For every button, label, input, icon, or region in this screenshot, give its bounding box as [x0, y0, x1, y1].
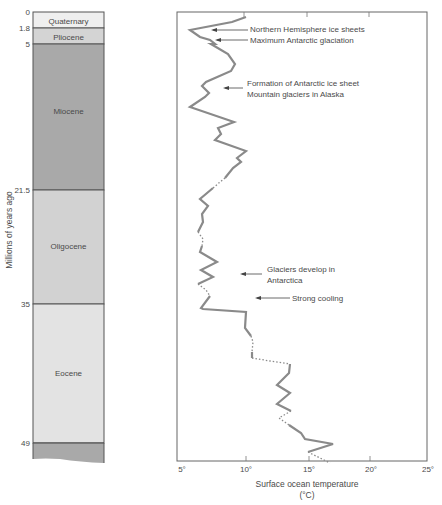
annotation-antarctica: Antarctica — [267, 276, 303, 285]
annotation-antarctic-ice-sheet: Formation of Antarctic ice sheet — [247, 79, 360, 88]
x-tick-25: 25° — [422, 465, 434, 474]
y-tick-21.5: 21.5 — [14, 186, 30, 195]
x-tick-5: 5° — [178, 465, 186, 474]
x-axis-label: Surface ocean temperature — [255, 479, 358, 489]
epoch-label-eocene: Eocene — [55, 369, 83, 378]
annotation-northern-hemisphere: Northern Hemisphere ice sheets — [250, 25, 365, 34]
annotations — [211, 28, 290, 300]
figure: Quaternary Pliocene Miocene Oligocene Eo… — [0, 0, 442, 505]
geologic-column: Quaternary Pliocene Miocene Oligocene Eo… — [4, 8, 104, 463]
epoch-miocene — [33, 44, 104, 190]
epoch-label-miocene: Miocene — [53, 107, 84, 116]
temperature-chart: 5° 10° 15° 20° 25° Surface ocean tempera… — [177, 12, 434, 500]
y-tick-35: 35 — [21, 300, 30, 309]
y-tick-5: 5 — [26, 40, 31, 49]
x-tick-20: 20° — [365, 465, 377, 474]
epoch-label-oligocene: Oligocene — [50, 242, 87, 251]
epoch-paleocene-stub — [33, 443, 104, 463]
annotation-glaciers-develop: Glaciers develop in — [267, 265, 335, 274]
epoch-label-quaternary: Quaternary — [48, 17, 88, 26]
epoch-label-pliocene: Pliocene — [53, 33, 84, 42]
x-tick-10: 10° — [240, 465, 252, 474]
annotation-max-antarctic: Maximum Antarctic glaciation — [250, 36, 354, 45]
y-axis-label: Millions of years ago — [4, 191, 14, 269]
x-tick-15: 15° — [303, 465, 315, 474]
y-tick-0: 0 — [26, 8, 31, 17]
annotation-alaska-glaciers: Mountain glaciers in Alaska — [247, 90, 344, 99]
y-tick-1.8: 1.8 — [19, 24, 31, 33]
x-axis-unit: (°C) — [299, 490, 314, 500]
annotation-strong-cooling: Strong cooling — [292, 294, 343, 303]
y-tick-49: 49 — [21, 439, 30, 448]
